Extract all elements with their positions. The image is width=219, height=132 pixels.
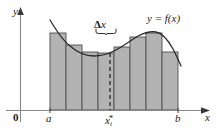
y-axis-label: y <box>13 6 18 17</box>
sample-point-star: * <box>109 113 114 123</box>
origin-label: 0 <box>13 112 19 123</box>
delta-variable: x <box>101 18 106 30</box>
riemann-bar <box>98 53 114 110</box>
riemann-bar <box>162 52 178 110</box>
delta-x-label: Δx <box>94 19 106 30</box>
x-axis-label: x <box>205 112 210 123</box>
riemann-sum-figure: y x 0 a b y = f(x) Δx xi* <box>0 0 219 132</box>
sample-point-label: xi* <box>105 114 113 128</box>
riemann-bar <box>114 47 130 110</box>
function-label: y = f(x) <box>147 13 180 24</box>
delta-symbol: Δ <box>94 18 101 30</box>
riemann-bar <box>130 37 146 110</box>
right-bound-label: b <box>175 113 181 124</box>
riemann-bar <box>66 45 82 110</box>
riemann-bar <box>146 33 162 110</box>
left-bound-label: a <box>46 113 52 124</box>
y-axis <box>17 7 24 122</box>
riemann-bar <box>50 33 66 110</box>
riemann-bar <box>82 52 98 110</box>
y-axis-arrow-icon <box>17 7 24 15</box>
